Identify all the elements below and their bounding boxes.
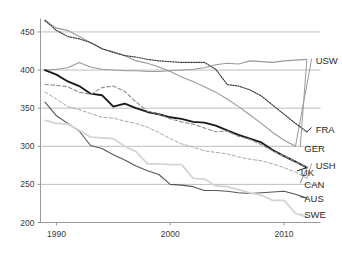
y-tick-label-300: 300 [20,141,34,151]
line-chart: 200250300350400450 199020002010 USWFRAGE… [0,0,342,255]
x-tick-labels: 199020002010 [47,229,294,239]
x-tick-label-2010: 2010 [275,229,294,239]
y-tick-label-400: 400 [20,65,34,75]
y-tick-label-200: 200 [20,218,34,228]
series-line-fra [45,21,307,132]
axes [38,19,321,226]
series-leader-fra [307,128,312,132]
series-leader-ger [300,59,307,146]
series-line-can [45,85,307,168]
series-label-uk: UK [301,167,315,178]
y-tick-labels: 200250300350400450 [20,27,34,228]
series-line-swe [45,120,307,217]
x-tick-label-1990: 1990 [47,229,66,239]
series-lines [45,21,312,218]
series-label-can: CAN [304,179,324,190]
series-label-swe: SWE [304,209,326,220]
y-tick-label-250: 250 [20,179,34,189]
series-label-ush: USH [316,160,336,171]
gridlines [41,32,321,184]
series-label-fra: FRA [316,124,336,135]
series-labels: USWFRAGERUSHUKCANAUSSWE [301,55,338,220]
series-label-aus: AUS [304,193,324,204]
series-label-ger: GER [304,143,325,154]
series-label-usw: USW [316,55,338,66]
chart-canvas: 200250300350400450 199020002010 USWFRAGE… [0,0,342,255]
series-line-aus [45,102,307,198]
x-tick-label-2000: 2000 [161,229,180,239]
y-tick-label-350: 350 [20,103,34,113]
series-line-uk [45,70,307,168]
series-line-usw [45,21,295,147]
y-tick-label-450: 450 [20,27,34,37]
